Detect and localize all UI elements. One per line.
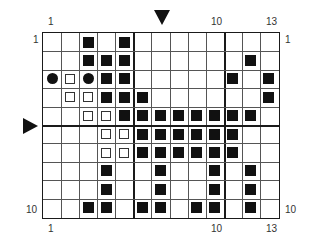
column-label-1-bottom: 1 [48, 224, 54, 234]
filled-square-icon [101, 55, 112, 66]
filled-square-icon [101, 184, 112, 195]
grid-cell [133, 125, 151, 143]
grid-cell [97, 125, 115, 143]
grid-cell [151, 162, 169, 180]
row-label-1-left: 1 [33, 35, 39, 45]
filled-square-icon [245, 184, 256, 195]
filled-square-icon [155, 184, 166, 195]
grid-cell [242, 107, 260, 125]
filled-square-icon [155, 165, 166, 176]
grid-cell [97, 199, 115, 217]
filled-square-icon [83, 202, 94, 213]
center-row-arrow-icon [23, 118, 38, 134]
filled-square-icon [209, 165, 220, 176]
grid-cell [97, 162, 115, 180]
chart-grid [42, 32, 280, 219]
grid-cell [188, 143, 206, 161]
filled-square-icon [119, 55, 130, 66]
column-label-1-top: 1 [48, 17, 54, 27]
grid-cell [97, 107, 115, 125]
filled-square-icon [209, 110, 220, 121]
grid-cell [61, 70, 79, 88]
filled-square-icon [209, 184, 220, 195]
grid-cell [206, 125, 224, 143]
grid-cell [115, 107, 133, 125]
grid-cell [170, 107, 188, 125]
grid-cell [115, 33, 133, 51]
filled-square-icon [83, 55, 94, 66]
grid-cell [151, 125, 169, 143]
filled-square-icon [191, 129, 202, 140]
filled-square-icon [263, 73, 274, 84]
row-label-10-left: 10 [26, 205, 37, 215]
filled-square-icon [227, 129, 238, 140]
filled-square-icon [263, 92, 274, 103]
open-square-icon [119, 129, 129, 139]
filled-circle-icon [47, 73, 58, 84]
grid-cell [188, 107, 206, 125]
grid-cell [97, 88, 115, 106]
grid-cell [97, 180, 115, 198]
filled-square-icon [191, 147, 202, 158]
grid-cell [97, 51, 115, 69]
grid-cell [242, 180, 260, 198]
filled-square-icon [101, 73, 112, 84]
filled-square-icon [173, 147, 184, 158]
filled-square-icon [155, 202, 166, 213]
grid-cell [79, 88, 97, 106]
filled-square-icon [83, 37, 94, 48]
filled-square-icon [119, 110, 130, 121]
grid-cell [206, 107, 224, 125]
grid-cell [260, 70, 278, 88]
grid-cell [115, 70, 133, 88]
column-label-10-top: 10 [211, 17, 222, 27]
grid-cell [61, 88, 79, 106]
grid-cell [115, 51, 133, 69]
filled-square-icon [119, 92, 130, 103]
grid-cell [115, 125, 133, 143]
filled-square-icon [119, 73, 130, 84]
filled-square-icon [155, 147, 166, 158]
grid-cell [206, 199, 224, 217]
open-square-icon [83, 111, 93, 121]
grid-cell [133, 199, 151, 217]
filled-square-icon [101, 92, 112, 103]
grid-cell [206, 162, 224, 180]
filled-square-icon [209, 202, 220, 213]
filled-square-icon [191, 110, 202, 121]
row-label-10-right: 10 [285, 205, 296, 215]
filled-square-icon [101, 165, 112, 176]
grid-cell [79, 70, 97, 88]
open-square-icon [101, 129, 111, 139]
row-label-1-right: 1 [285, 35, 291, 45]
open-square-icon [101, 148, 111, 158]
open-square-icon [65, 92, 75, 102]
grid-cell [224, 107, 242, 125]
grid-cell [43, 70, 61, 88]
open-square-icon [119, 148, 129, 158]
grid-cell [260, 88, 278, 106]
column-label-13-bottom: 13 [266, 224, 277, 234]
filled-square-icon [137, 129, 148, 140]
grid-cell [79, 51, 97, 69]
grid-cell [133, 107, 151, 125]
grid-cell [79, 33, 97, 51]
grid-cell [188, 199, 206, 217]
grid-cell [97, 143, 115, 161]
grid-cell [242, 162, 260, 180]
grid-cell [224, 143, 242, 161]
open-square-icon [83, 92, 93, 102]
filled-square-icon [155, 110, 166, 121]
filled-square-icon [137, 92, 148, 103]
grid-cell [242, 199, 260, 217]
grid-cell [206, 180, 224, 198]
grid-cell [151, 107, 169, 125]
filled-circle-icon [83, 73, 94, 84]
filled-square-icon [173, 110, 184, 121]
filled-square-icon [173, 129, 184, 140]
grid-cell [79, 107, 97, 125]
filled-square-icon [119, 37, 130, 48]
filled-square-icon [137, 202, 148, 213]
grid-cell [115, 143, 133, 161]
filled-square-icon [101, 202, 112, 213]
